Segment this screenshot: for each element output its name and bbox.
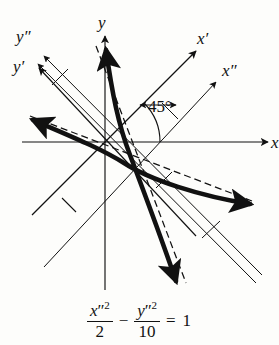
axis-y-double-prime-label: y″ [14,27,32,46]
equation-right-side: 1 [181,312,192,329]
axis-x-label: x [270,133,279,152]
equation: x″2 2 − y″2 10 = 1 [87,300,192,341]
axis-x-prime-label: x′ [196,29,209,48]
axis-x-prime-line [32,51,196,215]
axis-y-double-prime-line-a [44,56,262,275]
equation-term-2-numerator: y″2 [134,300,160,321]
axis-y-label: y [96,13,106,32]
angle-label: 45° [148,97,172,116]
axis-x: x [22,133,279,152]
equation-term-1: x″2 2 [87,300,113,341]
equation-term-1-denominator: 2 [93,322,108,341]
equation-operator: − [118,312,130,329]
axis-x-double-prime-line [44,82,216,267]
equation-term-1-numerator: x″2 [87,300,113,321]
axis-y-prime-line [39,68,196,236]
equation-term-2-denominator: 10 [136,322,159,341]
axis-x-double-prime-label: x″ [221,61,238,80]
equation-term-2: y″2 10 [134,300,160,341]
axis-y-prime-label: y′ [11,57,25,76]
axis-x-prime-tick [62,198,76,212]
figure-container: x y x′ y′ x″ y″ [0,0,279,345]
diagram-canvas: x y x′ y′ x″ y″ [0,0,279,345]
axis-y-prime: y′ [11,57,196,236]
angle-marker-45: 45° [140,97,176,142]
equation-equals: = [165,312,177,329]
asymptotes [30,46,252,283]
equation-row: x″2 2 − y″2 10 = 1 [0,300,279,341]
